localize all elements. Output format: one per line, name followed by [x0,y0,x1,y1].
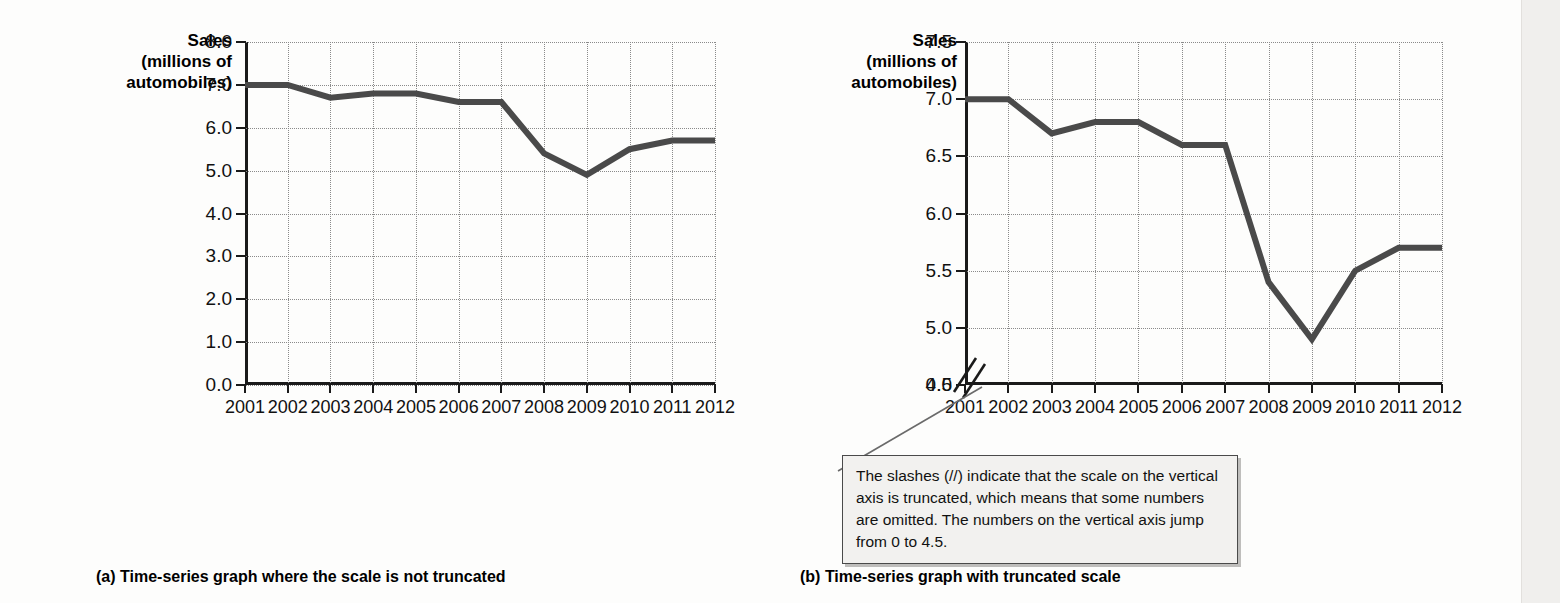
x-axis-label: 2003 [310,397,350,418]
caption-a: (a) Time-series graph where the scale is… [96,568,506,586]
x-axis-label: 2011 [1379,397,1418,418]
x-axis-label: 2007 [1205,397,1245,418]
y-axis-title-line-2: (millions of [785,51,957,72]
x-axis-label: 2001 [225,397,265,418]
x-axis-label: 2004 [1075,397,1115,418]
gridline-vertical [715,42,716,385]
x-axis-label: 2005 [1118,397,1158,418]
x-axis-label: 2003 [1032,397,1072,418]
x-axis-tick [1441,384,1443,393]
x-axis-tick [1137,384,1139,393]
x-axis-label: 2007 [481,397,521,418]
caption-b: (b) Time-series graph with truncated sca… [800,568,1121,586]
x-axis-tick [714,384,716,393]
x-axis-tick [329,384,331,393]
x-axis-label: 2010 [1335,397,1375,418]
x-axis-label: 2012 [695,397,735,418]
y-axis-label: 5.0 [206,160,232,182]
x-axis-tick [1224,384,1226,393]
x-axis-tick [372,384,374,393]
gridline-horizontal [245,385,715,386]
x-axis-tick [629,384,631,393]
x-axis-label: 2006 [1162,397,1202,418]
y-axis-label: 5.5 [926,260,952,282]
chart-panel-truncated: Sales (millions of automobiles) 4.55.05.… [760,0,1560,603]
y-axis-label: 7.5 [926,31,952,53]
x-axis-tick [458,384,460,393]
x-axis-tick [1051,384,1053,393]
y-axis-label: 3.0 [206,245,232,267]
x-axis-tick [1311,384,1313,393]
x-axis-tick [671,384,673,393]
y-axis-label: 7.0 [206,74,232,96]
x-axis-label: 2005 [396,397,436,418]
y-axis-label: 7.0 [926,88,952,110]
y-axis-label: 5.0 [926,317,952,339]
y-axis-label: 6.0 [206,117,232,139]
x-axis-tick [1398,384,1400,393]
x-axis-label: 2008 [524,397,564,418]
x-axis-label: 2010 [610,397,650,418]
chart-panel-untruncated: Sales (millions of automobiles) 0.01.02.… [0,0,760,603]
x-axis-tick [287,384,289,393]
x-axis-tick [1268,384,1270,393]
x-axis-tick [586,384,588,393]
truncation-callout: The slashes (//) indicate that the scale… [842,455,1238,564]
x-axis-label: 2011 [653,397,692,418]
x-axis-tick [1007,384,1009,393]
x-axis-tick [500,384,502,393]
x-axis-label: 2002 [988,397,1028,418]
y-axis-title-line-2: (millions of [60,51,232,72]
x-axis-tick [1094,384,1096,393]
plot-area-truncated: 4.55.05.56.06.57.07.50.02001200220032004… [965,42,1442,385]
x-axis-tick [1181,384,1183,393]
x-axis-tick [415,384,417,393]
y-axis-label: 2.0 [206,288,232,310]
y-axis-label: 6.0 [926,203,952,225]
plot-area-untruncated: 0.01.02.03.04.05.06.07.08.02001200220032… [245,42,715,385]
y-axis-label: 8.0 [206,31,232,53]
series-line-sales [245,85,715,175]
y-axis-label: 6.5 [926,145,952,167]
y-axis-label: 1.0 [206,331,232,353]
x-axis-label: 2004 [353,397,393,418]
gridline-vertical [1442,42,1443,385]
truncation-callout-text: The slashes (//) indicate that the scale… [856,467,1218,550]
x-axis-tick [1354,384,1356,393]
x-axis-label: 2008 [1249,397,1289,418]
x-axis-label: 2002 [268,397,308,418]
y-axis-label: 4.0 [206,203,232,225]
y-axis-label: 0.0 [206,374,232,396]
series-layer [965,42,1442,385]
x-axis-label: 2009 [1292,397,1332,418]
series-line-sales [965,99,1442,339]
series-layer [245,42,715,385]
x-axis-label: 2012 [1422,397,1462,418]
x-axis-label: 2006 [439,397,479,418]
x-axis-label: 2009 [567,397,607,418]
x-axis-tick [543,384,545,393]
x-axis-tick [244,384,246,393]
